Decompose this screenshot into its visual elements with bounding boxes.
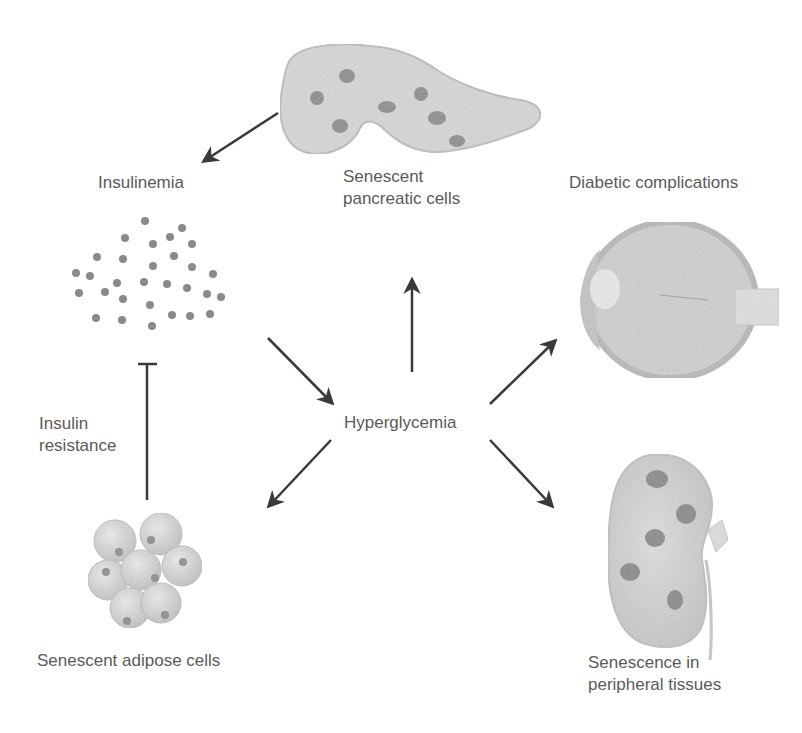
arrow-hyperglycemia-to-peripheral (490, 440, 552, 506)
arrow-hyperglycemia-to-adipose (269, 440, 331, 506)
eye-icon (580, 222, 779, 378)
label-senescent-pancreatic-cells: Senescent pancreatic cells (343, 166, 460, 210)
label-diabetic-complications: Diabetic complications (569, 172, 738, 194)
arrow-hyperglycemia-to-complications (490, 341, 555, 404)
arrow-insulinemia-to-hyperglycemia (268, 338, 332, 403)
label-insulinemia: Insulinemia (98, 172, 184, 194)
senescence-hyperglycemia-diagram: Hyperglycemia Insulinemia Senescent panc… (0, 0, 802, 733)
inhibition-edge (138, 364, 157, 500)
pancreas-icon (280, 44, 540, 153)
insulin-particles-icon (72, 217, 225, 330)
arrow-pancreas-to-insulinemia (204, 113, 278, 161)
label-insulin-resistance: Insulin resistance (39, 413, 116, 457)
label-senescence-peripheral-tissues: Senescence in peripheral tissues (588, 652, 721, 696)
adipose-cells-icon (88, 513, 202, 628)
label-senescent-adipose-cells: Senescent adipose cells (37, 650, 220, 672)
center-label-hyperglycemia: Hyperglycemia (344, 412, 456, 434)
kidney-icon (608, 454, 728, 660)
